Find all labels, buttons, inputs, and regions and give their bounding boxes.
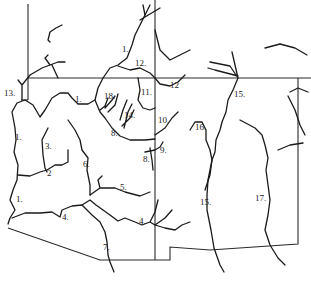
label-4a: 4.: [62, 212, 69, 222]
arizona-southwest-border: [8, 228, 155, 260]
river-1-north-fork: [140, 5, 160, 20]
label-10: 10.: [158, 115, 169, 125]
river-12-east: [155, 30, 190, 60]
label-15b: 15.: [200, 197, 211, 207]
river-map: 1. 12. 12 13. 1. 18. 11. 14. 15. 16. 10.…: [0, 0, 311, 281]
label-8b: 8.: [143, 154, 150, 164]
rivers: [8, 5, 308, 272]
label-4b: 4.: [139, 216, 146, 226]
label-12b: 12: [170, 80, 179, 90]
state-borders: [8, 0, 311, 260]
label-6: 6.: [83, 159, 90, 169]
river-4: [12, 200, 190, 230]
label-1b: 1.: [75, 94, 82, 104]
label-13: 13.: [4, 88, 15, 98]
label-15a: 15.: [234, 89, 245, 99]
label-17: 17.: [255, 193, 266, 203]
label-1d: 1.: [16, 194, 23, 204]
river-northwest-lake: [48, 25, 62, 42]
label-11: 11.: [141, 87, 152, 97]
label-3: 3.: [45, 141, 52, 151]
label-18: 18.: [104, 91, 115, 101]
label-2: 2: [47, 168, 52, 178]
river-east: [278, 143, 303, 150]
label-8a: 8.: [111, 128, 118, 138]
label-1a: 1.: [122, 44, 129, 54]
label-16: 16.: [195, 122, 206, 132]
label-9: 9.: [160, 145, 167, 155]
label-5: 5.: [120, 182, 127, 192]
label-7: 7.: [103, 242, 110, 252]
label-12a: 12.: [135, 58, 146, 68]
label-1c: 1.: [15, 132, 22, 142]
river-6: [68, 120, 90, 195]
river-15: [207, 52, 238, 272]
labels: 1. 12. 12 13. 1. 18. 11. 14. 15. 16. 10.…: [4, 44, 266, 252]
river-northeast: [265, 44, 307, 55]
label-14: 14.: [124, 110, 135, 120]
